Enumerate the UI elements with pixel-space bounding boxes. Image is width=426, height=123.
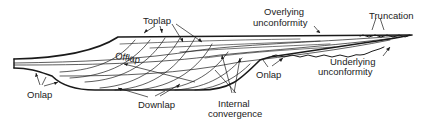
underlying-unconformity-label-2: unconformity (318, 67, 372, 77)
overlying-unconformity-label-2: unconformity (253, 18, 307, 28)
truncation-label: Truncation (369, 11, 414, 21)
overlying-unconformity-label-1: Overlying (264, 7, 304, 17)
internal-convergence-label-2: convergence (208, 109, 262, 119)
stratigraphy-diagram: Toplap Offlap Onlap Downlap Internal con… (0, 0, 426, 123)
onlap-left-label: Onlap (27, 90, 52, 100)
toplap-label: Toplap (143, 16, 171, 26)
downlap-label: Downlap (138, 100, 175, 110)
onlap-right-label: Onlap (256, 70, 281, 80)
